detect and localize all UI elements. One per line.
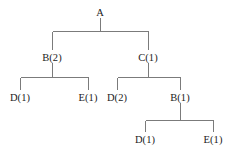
tree-node-n3: D(1) xyxy=(10,92,30,103)
tree-node-n7: D(1) xyxy=(135,134,155,145)
tree-node-n8: E(1) xyxy=(203,134,222,145)
tree-node-n0: A xyxy=(96,7,104,18)
tree-node-n1: B(2) xyxy=(42,52,62,63)
tree-node-n2: C(1) xyxy=(138,52,158,63)
tree-node-n5: D(2) xyxy=(107,92,127,103)
edge-layer xyxy=(21,18,214,132)
tree-node-n4: E(1) xyxy=(78,92,97,103)
tree-diagram: AB(2)C(1)D(1)E(1)D(2)B(1)D(1)E(1) xyxy=(0,0,229,156)
tree-node-n6: B(1) xyxy=(170,92,190,103)
tree-edges xyxy=(0,0,229,156)
